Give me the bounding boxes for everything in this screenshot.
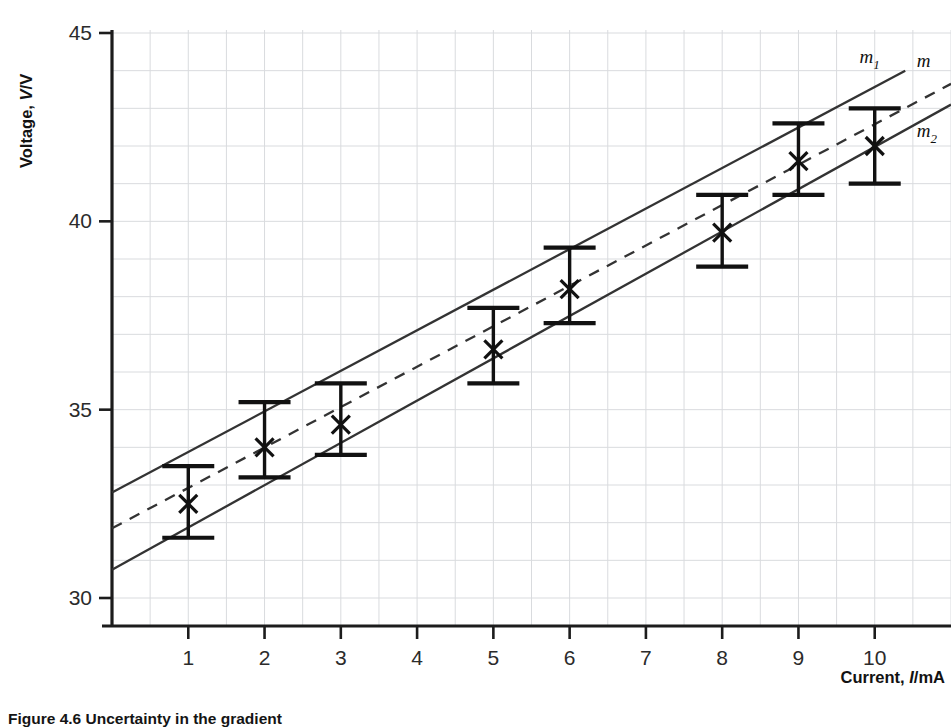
x-tick-label: 7 — [640, 646, 652, 669]
figure-root: 30354045 12345678910 mm1m2 Voltage, V/V … — [0, 0, 951, 728]
y-tick-label: 40 — [69, 209, 92, 232]
y-tick-label: 30 — [69, 586, 92, 609]
y-axis-ticks — [99, 33, 112, 598]
y-tick-label: 35 — [69, 398, 92, 421]
x-axis-ticks — [188, 626, 874, 639]
y-axis-title: Voltage, V/V — [17, 74, 35, 168]
x-axis-tick-labels: 12345678910 — [182, 646, 886, 669]
fit-line-labels-group: mm1m2 — [859, 46, 937, 145]
error-bar — [315, 383, 367, 455]
x-tick-label: 6 — [564, 646, 576, 669]
fit-line-m1 — [112, 71, 905, 493]
x-tick-label: 2 — [259, 646, 271, 669]
error-bar — [239, 402, 291, 477]
x-tick-label: 10 — [863, 646, 886, 669]
x-tick-label: 4 — [411, 646, 423, 669]
x-tick-label: 9 — [793, 646, 805, 669]
x-tick-label: 3 — [335, 646, 347, 669]
grid-minor — [112, 30, 951, 626]
fit-line-label-m1: m1 — [859, 46, 879, 72]
axis-lines — [102, 30, 951, 627]
y-tick-label: 45 — [69, 21, 92, 44]
x-axis-title: Current, I/mA — [840, 668, 945, 686]
fit-line-label-m2: m2 — [917, 120, 938, 146]
x-tick-label: 1 — [182, 646, 194, 669]
fit-line-label-m: m — [917, 50, 931, 71]
x-tick-label: 5 — [488, 646, 500, 669]
x-tick-label: 8 — [716, 646, 728, 669]
figure-caption: Figure 4.6 Uncertainty in the gradient — [8, 710, 948, 728]
y-axis-tick-labels: 30354045 — [69, 21, 92, 609]
chart-canvas: 30354045 12345678910 mm1m2 Voltage, V/V … — [0, 0, 951, 728]
